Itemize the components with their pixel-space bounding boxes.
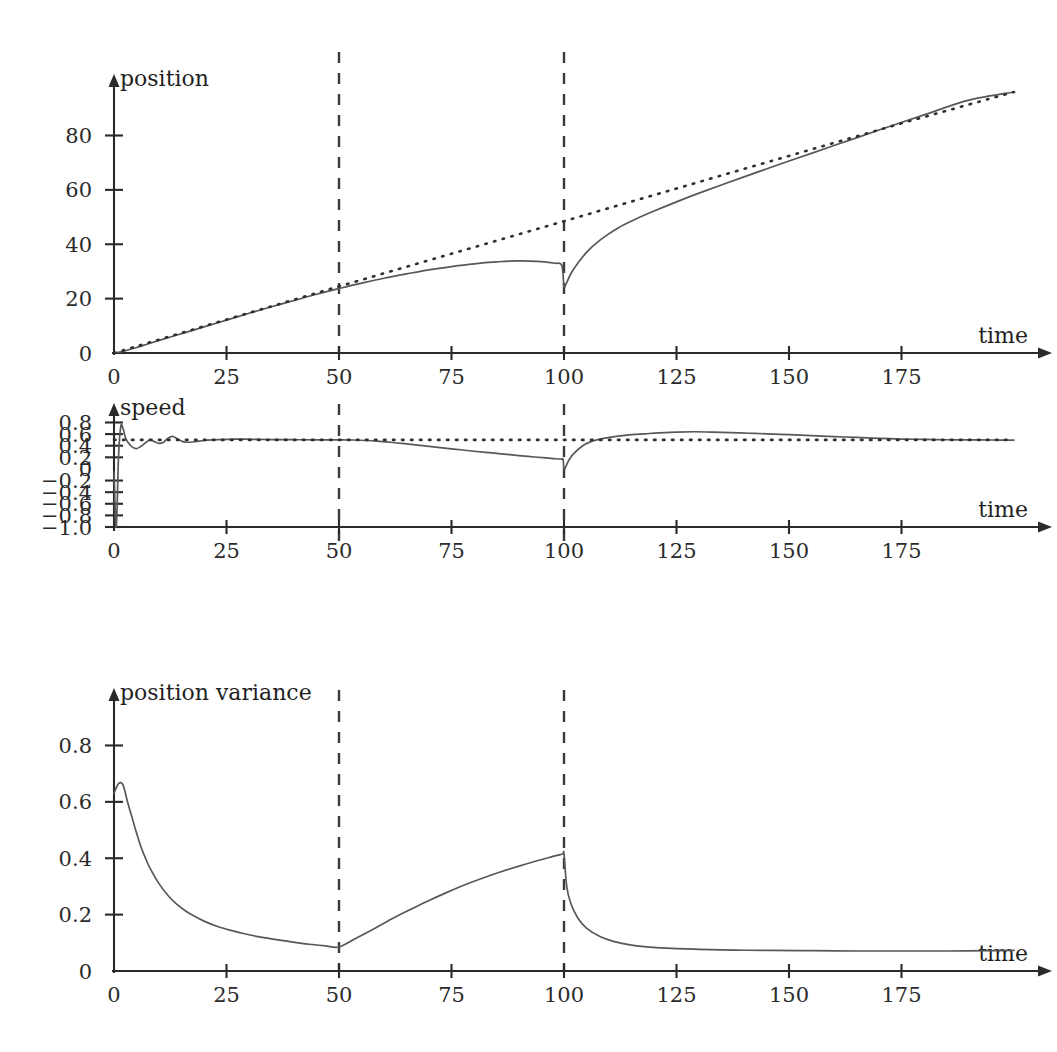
y-tick-label-position-variance-0.6: 0.6 bbox=[59, 790, 92, 814]
x-tick-label-position-75: 75 bbox=[438, 365, 465, 389]
y-tick-label-position-variance-0.4: 0.4 bbox=[59, 847, 92, 871]
x-tick-label-speed-100: 100 bbox=[544, 539, 584, 563]
x-tick-label-position-50: 50 bbox=[326, 365, 353, 389]
x-axis-arrow-position-variance bbox=[1038, 966, 1052, 977]
y-axis-arrow-position bbox=[109, 74, 120, 87]
x-tick-label-position-variance-75: 75 bbox=[438, 983, 465, 1007]
y-axis-label-position-variance: position variance bbox=[120, 680, 312, 705]
x-tick-label-position-variance-100: 100 bbox=[544, 983, 584, 1007]
x-tick-label-position-variance-25: 25 bbox=[213, 983, 240, 1007]
y-tick-label-position-40: 40 bbox=[65, 233, 92, 257]
x-axis-label-speed: time bbox=[978, 497, 1028, 522]
x-tick-label-speed-25: 25 bbox=[213, 539, 240, 563]
x-tick-label-position-100: 100 bbox=[544, 365, 584, 389]
x-tick-label-position-25: 25 bbox=[213, 365, 240, 389]
y-tick-label-position-80: 80 bbox=[65, 124, 92, 148]
x-tick-label-speed-75: 75 bbox=[438, 539, 465, 563]
panel-position-variance: 025507510012515017500.20.40.60.8position… bbox=[59, 680, 1052, 1007]
y-tick-label-position-60: 60 bbox=[65, 178, 92, 202]
figure-root: 0255075100125150175020406080positiontime… bbox=[0, 0, 1057, 1052]
x-tick-label-position-variance-125: 125 bbox=[656, 983, 696, 1007]
x-tick-label-position-variance-50: 50 bbox=[326, 983, 353, 1007]
x-tick-label-position-variance-0: 0 bbox=[107, 983, 120, 1007]
x-tick-label-position-variance-150: 150 bbox=[769, 983, 809, 1007]
y-tick-label-position-0: 0 bbox=[79, 342, 92, 366]
x-tick-label-position-variance-175: 175 bbox=[881, 983, 921, 1007]
x-tick-label-speed-50: 50 bbox=[326, 539, 353, 563]
multi-panel-line-chart: 0255075100125150175020406080positiontime… bbox=[0, 0, 1057, 1052]
x-axis-label-position: time bbox=[978, 323, 1028, 348]
x-tick-label-speed-150: 150 bbox=[769, 539, 809, 563]
x-tick-label-position-125: 125 bbox=[656, 365, 696, 389]
x-axis-arrow-speed bbox=[1038, 522, 1052, 533]
x-tick-label-speed-0: 0 bbox=[107, 539, 120, 563]
x-axis-arrow-position bbox=[1038, 348, 1052, 359]
y-tick-label-speed--1: −1.0 bbox=[41, 516, 92, 540]
y-tick-label-position-variance-0.8: 0.8 bbox=[59, 734, 92, 758]
x-tick-label-position-0: 0 bbox=[107, 365, 120, 389]
y-axis-arrow-speed bbox=[109, 403, 120, 416]
x-axis-label-position-variance: time bbox=[978, 941, 1028, 966]
x-tick-label-speed-125: 125 bbox=[656, 539, 696, 563]
y-tick-label-position-variance-0.2: 0.2 bbox=[59, 903, 92, 927]
x-tick-label-position-150: 150 bbox=[769, 365, 809, 389]
x-tick-label-position-175: 175 bbox=[881, 365, 921, 389]
y-axis-label-speed: speed bbox=[120, 395, 186, 420]
y-tick-label-position-20: 20 bbox=[65, 287, 92, 311]
panel-position: 0255075100125150175020406080positiontime bbox=[65, 52, 1052, 389]
x-tick-label-speed-175: 175 bbox=[881, 539, 921, 563]
y-axis-label-position: position bbox=[120, 66, 209, 91]
y-axis-arrow-position-variance bbox=[109, 688, 120, 701]
panel-speed: 02550751001251501750.80.60.40.20−0.2−0.4… bbox=[41, 395, 1052, 563]
y-tick-label-position-variance-0: 0 bbox=[79, 960, 92, 984]
